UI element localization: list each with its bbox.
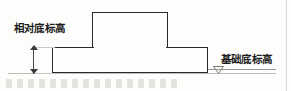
label-relative-bottom-elevation: 相对底标高 [14,20,65,35]
label-foundation-bottom-elevation: 基础底标高 [221,51,272,66]
column-footing-seam [94,47,166,49]
page-bleed-through [6,79,181,88]
page-edge-border [286,0,287,91]
footing-shape [52,47,208,73]
arrow-down-icon [30,69,38,74]
elevation-triangle-icon [213,66,224,74]
column-shape [92,12,168,48]
arrow-up-icon [30,45,38,50]
diagram-canvas: 相对底标高 基础底标高 [0,0,291,91]
